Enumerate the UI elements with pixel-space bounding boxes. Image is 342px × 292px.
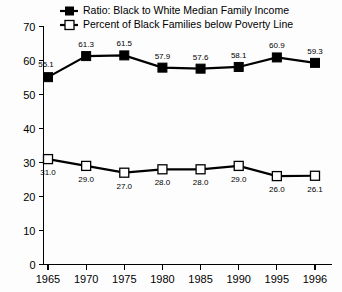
data-point-label: 28.0 — [193, 178, 209, 187]
data-point-label: 31.0 — [40, 168, 56, 177]
data-point-marker — [272, 172, 281, 181]
x-axis-tick-label: 1970 — [74, 273, 98, 285]
y-axis-tick-label: 0 — [29, 259, 35, 271]
data-point-marker — [82, 52, 91, 61]
y-axis-tick-label: 50 — [23, 89, 35, 101]
filled-square-icon — [66, 7, 74, 15]
data-point-marker — [234, 62, 243, 71]
data-point-label: 59.3 — [307, 47, 323, 56]
y-axis-tick-label: 70 — [23, 21, 35, 33]
data-point-label: 29.0 — [78, 175, 94, 184]
data-point-label: 28.0 — [155, 178, 171, 187]
y-axis-tick-label: 20 — [23, 191, 35, 203]
data-point-marker — [234, 161, 243, 170]
data-point-marker — [311, 171, 320, 180]
line-chart: Ratio: Black to White Median Family Inco… — [0, 0, 342, 292]
data-point-label: 58.1 — [231, 51, 247, 60]
data-point-label: 29.0 — [231, 175, 247, 184]
data-point-label: 26.0 — [269, 185, 285, 194]
data-point-marker — [196, 64, 205, 73]
data-point-label: 27.0 — [116, 182, 132, 191]
data-point-label: 57.9 — [155, 52, 171, 61]
data-point-label: 55.1 — [38, 60, 54, 69]
data-point-marker — [44, 73, 53, 82]
open-square-icon — [65, 21, 74, 30]
y-axis-tick-label: 30 — [23, 157, 35, 169]
x-axis-tick-label: 1975 — [112, 273, 136, 285]
data-point-label: 60.9 — [269, 41, 285, 50]
x-axis-tick-label: 1995 — [265, 273, 289, 285]
chart-container: Ratio: Black to White Median Family Inco… — [0, 0, 342, 292]
data-point-marker — [158, 63, 167, 72]
data-point-label: 61.5 — [116, 39, 132, 48]
data-point-marker — [82, 161, 91, 170]
data-point-marker — [44, 155, 53, 164]
data-point-label: 61.3 — [78, 40, 94, 49]
legend-label-1: Percent of Black Families below Poverty … — [83, 18, 293, 30]
data-point-marker — [120, 168, 129, 177]
y-axis-tick-label: 60 — [23, 55, 35, 67]
x-axis-tick-label: 1996 — [303, 273, 327, 285]
x-axis-tick-label: 1985 — [188, 273, 212, 285]
x-axis-tick-label: 1965 — [36, 273, 60, 285]
data-point-label: 26.1 — [307, 185, 323, 194]
x-axis-tick-label: 1990 — [226, 273, 250, 285]
y-axis-tick-label: 40 — [23, 123, 35, 135]
data-point-marker — [158, 165, 167, 174]
x-axis-tick-label: 1980 — [150, 273, 174, 285]
y-axis-tick-label: 10 — [23, 225, 35, 237]
data-point-label: 57.6 — [193, 53, 209, 62]
data-point-marker — [272, 53, 281, 62]
data-point-marker — [120, 51, 129, 60]
legend-label-0: Ratio: Black to White Median Family Inco… — [83, 4, 289, 16]
data-point-marker — [311, 58, 320, 67]
chart-axes — [44, 27, 333, 265]
data-point-marker — [196, 165, 205, 174]
